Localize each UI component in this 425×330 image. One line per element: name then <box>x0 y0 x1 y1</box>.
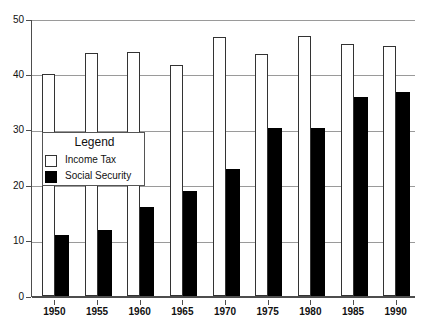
bar-social-security-1975 <box>268 128 282 296</box>
bar-social-security-1950 <box>55 235 69 296</box>
x-tick-label-1970: 1970 <box>214 306 236 317</box>
y-tick-mark-0 <box>26 297 31 298</box>
y-tick-label-20: 20 <box>0 180 24 191</box>
x-axis: 195019551960196519701975198019851990 <box>31 300 415 330</box>
y-tick-label-40: 40 <box>0 69 24 80</box>
bar-social-security-1960 <box>140 207 154 296</box>
y-tick-label-10: 10 <box>0 235 24 246</box>
x-tick-label-1960: 1960 <box>129 306 151 317</box>
bar-social-security-1980 <box>311 128 325 296</box>
open-square-swatch-icon <box>45 155 57 167</box>
x-tick-mark-1980 <box>310 300 311 305</box>
bar-social-security-1970 <box>226 169 240 296</box>
bar-social-security-1985 <box>354 97 368 296</box>
x-tick-mark-1965 <box>182 300 183 305</box>
bar-income-tax-1985 <box>341 44 354 296</box>
x-tick-mark-1970 <box>225 300 226 305</box>
x-tick-label-1975: 1975 <box>257 306 279 317</box>
gridline-50 <box>32 20 415 21</box>
legend-entry-label: Income Tax <box>65 154 116 165</box>
y-tick-label-50: 50 <box>0 14 24 25</box>
x-tick-mark-1990 <box>396 300 397 305</box>
bar-income-tax-1990 <box>383 46 396 296</box>
bar-income-tax-1975 <box>255 54 268 296</box>
y-tick-label-30: 30 <box>0 124 24 135</box>
bar-social-security-1965 <box>183 191 197 296</box>
y-axis: 50 40 30 20 10 0 <box>0 0 31 330</box>
x-tick-label-1990: 1990 <box>385 306 407 317</box>
x-tick-mark-1960 <box>140 300 141 305</box>
x-tick-mark-1975 <box>268 300 269 305</box>
x-tick-label-1985: 1985 <box>342 306 364 317</box>
bar-social-security-1955 <box>98 230 112 296</box>
y-tick-label-0: 0 <box>0 291 24 302</box>
bar-chart: 50 40 30 20 10 0 19501955196019651970197… <box>0 0 425 330</box>
legend-title: Legend <box>43 135 146 149</box>
x-tick-mark-1950 <box>54 300 55 305</box>
x-tick-mark-1955 <box>97 300 98 305</box>
filled-square-swatch-icon <box>45 171 57 183</box>
x-tick-label-1965: 1965 <box>171 306 193 317</box>
legend: Legend Income Tax Social Security <box>42 132 145 186</box>
bar-income-tax-1980 <box>298 36 311 296</box>
bar-income-tax-1970 <box>213 37 226 296</box>
x-tick-label-1950: 1950 <box>43 306 65 317</box>
x-tick-label-1980: 1980 <box>299 306 321 317</box>
x-tick-label-1955: 1955 <box>86 306 108 317</box>
gridline-0 <box>32 297 415 298</box>
bar-social-security-1990 <box>396 92 410 296</box>
bar-income-tax-1965 <box>170 65 183 296</box>
x-tick-mark-1985 <box>353 300 354 305</box>
legend-entry-label: Social Security <box>65 170 131 181</box>
